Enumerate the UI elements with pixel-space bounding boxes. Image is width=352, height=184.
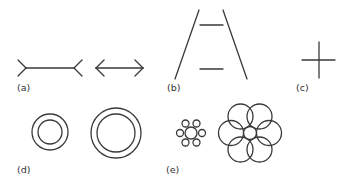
arrow-heads-line: [96, 60, 143, 76]
large-surround-set: [219, 104, 282, 162]
panel-label-b: (b): [167, 82, 180, 93]
panel-a-muller-lyer: (a): [17, 60, 143, 93]
fins-out-line: [18, 60, 82, 76]
small-surround-set: [177, 120, 206, 146]
panel-label-d: (d): [17, 164, 30, 175]
right-converging-line: [223, 10, 247, 79]
panel-b-ponzo: (b): [167, 10, 247, 93]
panel-label-e: (e): [166, 164, 179, 175]
panel-label-a: (a): [17, 82, 30, 93]
panel-d-delboeuf: (d): [17, 108, 141, 175]
left-converging-line: [175, 10, 199, 79]
panel-label-c: (c): [296, 82, 309, 93]
large-inner-ring: [97, 114, 135, 152]
small-inner-ring: [38, 120, 62, 144]
panel-e-ebbinghaus: (e): [166, 104, 282, 175]
panel-c-vertical-horizontal: (c): [296, 42, 335, 93]
illusions-figure: (a) (b) (c) (d): [0, 0, 352, 184]
large-outer-ring: [91, 108, 141, 158]
